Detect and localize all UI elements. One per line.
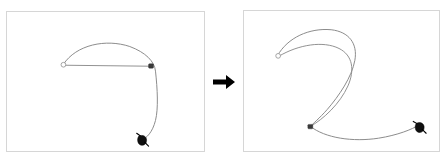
rope-diagram-after <box>244 11 439 151</box>
rope-arch-path <box>63 43 157 139</box>
rope-node-marker <box>308 124 313 128</box>
rope-diagram-before <box>7 12 204 151</box>
rope-free-end-marker <box>61 62 66 67</box>
panel-before <box>6 11 205 152</box>
rope-free-end-marker <box>276 53 281 58</box>
gripper-after <box>413 121 426 133</box>
gripper-body-icon <box>138 135 147 145</box>
right-arrow-glyph <box>213 75 235 89</box>
gripper-body-icon <box>415 123 424 133</box>
rope-inner-loop-path <box>279 44 352 126</box>
figure-container <box>0 0 448 164</box>
transition-arrow <box>210 70 238 94</box>
rope-tail-path <box>310 125 418 139</box>
right-arrow-icon <box>210 70 238 94</box>
rope-chord-path <box>64 65 150 66</box>
gripper-before <box>137 133 149 146</box>
rope-node-marker <box>149 64 154 68</box>
panel-after <box>243 10 440 152</box>
